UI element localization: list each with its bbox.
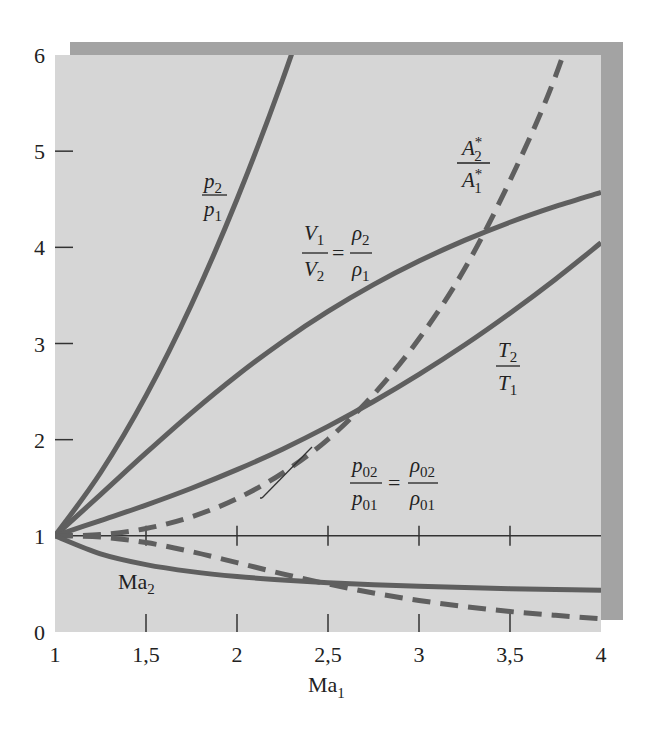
normal-shock-chart: 0123456 11,522,533,54 Ma1 p2 p1 V1 V2 = …	[0, 0, 645, 737]
x-tick-label: 3,5	[496, 642, 524, 667]
x-tick-label: 1	[50, 642, 61, 667]
x-tick-label: 1,5	[132, 642, 160, 667]
y-tick-label: 4	[34, 235, 45, 260]
x-tick-label: 4	[596, 642, 607, 667]
svg-text:A*1: A*1	[460, 166, 482, 196]
frame-shadow-right	[601, 42, 623, 620]
svg-text:A*2: A*2	[460, 134, 482, 164]
x-tick-label: 3	[414, 642, 425, 667]
y-tick-label: 6	[34, 43, 45, 68]
y-tick-label: 2	[34, 428, 45, 453]
x-tick-label: 2,5	[314, 642, 342, 667]
y-tick-label: 1	[34, 524, 45, 549]
frame-shadow-top	[70, 42, 623, 56]
x-axis-title: Ma1	[308, 672, 345, 701]
svg-text:=: =	[332, 240, 344, 265]
svg-text:=: =	[388, 470, 400, 495]
x-tick-label: 2	[232, 642, 243, 667]
y-tick-label: 0	[34, 620, 45, 645]
y-tick-label: 5	[34, 139, 45, 164]
y-tick-label: 3	[34, 332, 45, 357]
